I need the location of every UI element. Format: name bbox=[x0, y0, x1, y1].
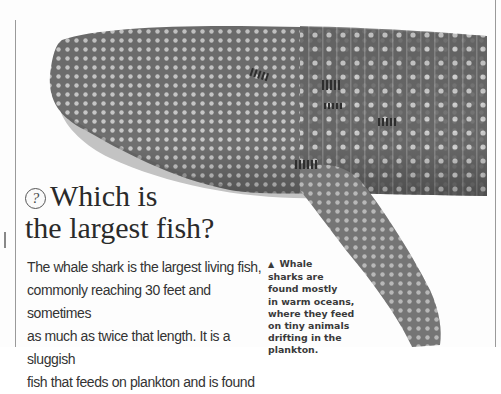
headline: ?Which is the largest fish? bbox=[25, 180, 214, 244]
question-mark-icon: ? bbox=[25, 188, 46, 209]
image-caption: ▲ Whale sharks are found mostly in warm … bbox=[268, 258, 378, 357]
caption-line: Whale bbox=[279, 258, 312, 269]
body-line: fish that feeds on plankton and is found bbox=[27, 374, 255, 390]
body-paragraph: The whale shark is the largest living fi… bbox=[27, 256, 262, 394]
caption-line: sharks are bbox=[268, 271, 324, 282]
caption-line: where they feed bbox=[268, 308, 354, 319]
caption-line: plankton. bbox=[268, 344, 318, 355]
caption-line: found mostly bbox=[268, 283, 337, 294]
caption-line: in warm oceans, bbox=[268, 296, 354, 307]
body-line: commonly reaching 30 feet and sometimes bbox=[27, 282, 211, 321]
caption-line: on tiny animals bbox=[268, 320, 349, 331]
headline-line-1: Which is bbox=[50, 179, 157, 212]
caption-pointer-icon: ▲ bbox=[268, 260, 274, 269]
headline-line-2: the largest fish? bbox=[25, 211, 214, 244]
body-line: as much as twice that length. It is a sl… bbox=[27, 328, 230, 367]
caption-line: drifting in the bbox=[268, 332, 342, 343]
body-line: The whale shark is the largest living fi… bbox=[27, 259, 261, 275]
